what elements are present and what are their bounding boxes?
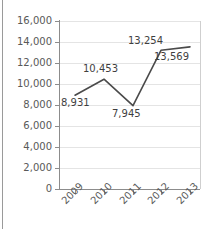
y-tick-label-0: 0 <box>6 184 52 194</box>
data-label-2010: 10,453 <box>83 64 118 74</box>
y-tick-label-16000: 16,000 <box>6 16 52 26</box>
data-label-2011: 7,945 <box>112 109 141 119</box>
y-tick-label-10000: 10,000 <box>6 79 52 89</box>
y-tick-label-8000: 8,000 <box>6 100 52 110</box>
y-tick-label-6000: 6,000 <box>6 121 52 131</box>
data-label-2013: 13,569 <box>154 52 189 62</box>
data-label-2012: 13,254 <box>128 36 163 46</box>
y-tick-label-14000: 14,000 <box>6 37 52 47</box>
y-tick-label-2000: 2,000 <box>6 163 52 173</box>
line-chart: 16,000 14,000 12,000 10,000 8,000 6,000 … <box>0 0 210 229</box>
y-tick-label-12000: 12,000 <box>6 58 52 68</box>
y-tick-label-4000: 4,000 <box>6 142 52 152</box>
data-label-2009: 8,931 <box>61 98 90 108</box>
